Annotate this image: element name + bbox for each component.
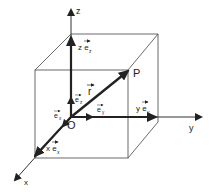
svg-text:y e: y e — [136, 104, 147, 113]
axis-y-label: y — [189, 123, 194, 133]
svg-text:z: z — [89, 48, 92, 54]
cartesian-diagram: z y x O P r z e z y e y x e x e z e y e … — [0, 0, 213, 194]
axes — [15, 10, 201, 180]
axis-x-label: x — [24, 178, 28, 187]
r-label: r — [87, 85, 94, 97]
svg-text:z: z — [80, 100, 83, 105]
svg-text:y: y — [147, 109, 150, 115]
axis-z-label: z — [76, 6, 81, 16]
svg-text:r: r — [88, 86, 92, 97]
svg-text:x: x — [57, 149, 60, 155]
svg-text:e: e — [75, 96, 79, 103]
svg-text:e: e — [97, 106, 101, 113]
unit-ex-label: e x — [54, 111, 62, 121]
svg-text:y: y — [102, 110, 105, 115]
unit-ey-label: e y — [97, 105, 105, 115]
point-p-label: P — [133, 67, 140, 79]
svg-text:z e: z e — [78, 43, 89, 52]
cube-edge-bottom-right — [128, 122, 158, 158]
x-component-label: x e x — [46, 142, 60, 155]
cube-edge-top-right — [128, 34, 158, 70]
y-component-label: y e y — [136, 102, 150, 115]
cube-edge-top-left — [35, 34, 71, 70]
z-component-label: z e z — [78, 41, 92, 54]
svg-text:x e: x e — [46, 144, 57, 153]
unit-ez-label: e z — [75, 95, 83, 105]
origin-label: O — [67, 119, 76, 131]
svg-text:e: e — [54, 112, 58, 119]
svg-text:x: x — [59, 116, 62, 121]
